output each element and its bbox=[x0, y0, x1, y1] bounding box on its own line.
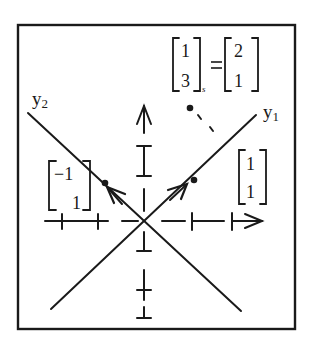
vertical-axis-dashed bbox=[137, 106, 151, 318]
y1-axis-line bbox=[51, 115, 256, 309]
point-1-3-s bbox=[187, 105, 194, 112]
y2-axis-line bbox=[28, 113, 241, 311]
annotation-rhs-bottom: 1 bbox=[234, 71, 243, 91]
vector-neg1-1-bottom: 1 bbox=[72, 193, 81, 213]
vector-1-1-top: 1 bbox=[246, 154, 255, 174]
dotted-connector bbox=[198, 115, 213, 131]
vector-1-1-bottom: 1 bbox=[246, 182, 255, 202]
annotation-lhs-top: 1 bbox=[181, 41, 190, 61]
y2-axis-label: y2 bbox=[32, 88, 48, 111]
y1-axis-label: y1 bbox=[263, 101, 279, 124]
annotation-rhs-top: 2 bbox=[234, 41, 243, 61]
annotation-lhs-subscript: s bbox=[202, 84, 206, 94]
point-on-y2 bbox=[102, 180, 109, 187]
annotation-lhs-bottom: 3 bbox=[181, 71, 190, 91]
x-axis-dashed bbox=[45, 213, 262, 230]
point-on-y1 bbox=[191, 177, 198, 184]
coordinate-change-diagram: y2 y1 −1 1 1 1 1 3 s 2 1 bbox=[0, 0, 313, 349]
vector-neg1-1-top: −1 bbox=[54, 164, 73, 184]
